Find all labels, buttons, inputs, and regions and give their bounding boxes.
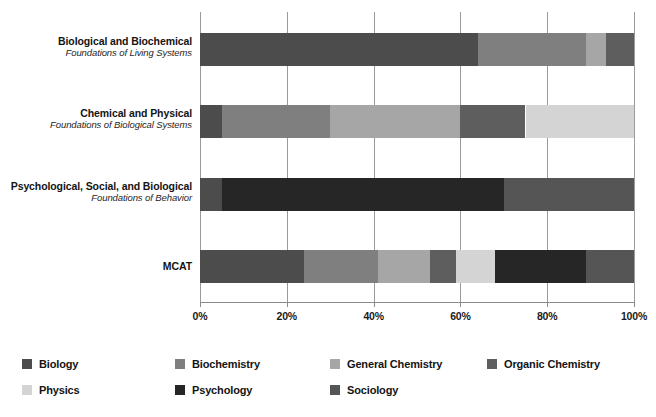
category-label-main: MCAT — [0, 260, 192, 272]
legend-item[interactable]: General Chemistry — [330, 358, 442, 370]
legend-swatch — [175, 359, 185, 369]
bar-segment — [200, 178, 222, 211]
legend-item[interactable]: Biology — [22, 358, 78, 370]
x-axis-tick — [547, 302, 548, 307]
legend-label: Biochemistry — [192, 358, 260, 370]
x-axis-tick-label: 20% — [277, 310, 297, 322]
category-label: Biological and BiochemicalFoundations of… — [0, 35, 192, 59]
bar-segment — [504, 178, 634, 211]
bar-segment — [586, 33, 606, 66]
legend-label: Sociology — [347, 384, 398, 396]
category-label-main: Biological and Biochemical — [0, 35, 192, 47]
category-label: Psychological, Social, and BiologicalFou… — [0, 180, 192, 204]
x-axis-tick — [460, 302, 461, 307]
bar-segment — [526, 105, 635, 138]
bar-segment — [456, 250, 495, 283]
chart-legend: BiologyBiochemistryGeneral ChemistryOrga… — [0, 352, 656, 410]
x-axis-line — [200, 302, 635, 303]
x-axis-tick — [287, 302, 288, 307]
category-label-main: Chemical and Physical — [0, 107, 192, 119]
legend-item[interactable]: Organic Chemistry — [487, 358, 600, 370]
legend-label: Organic Chemistry — [504, 358, 600, 370]
bar-segment — [330, 105, 460, 138]
category-label-sub: Foundations of Behavior — [0, 192, 192, 203]
bar-segment — [495, 250, 586, 283]
bar-segment — [606, 33, 634, 66]
category-label: MCAT — [0, 260, 192, 272]
legend-item[interactable]: Physics — [22, 384, 80, 396]
bar-segment — [222, 105, 331, 138]
bar-segment — [430, 250, 456, 283]
bar-segment — [478, 33, 587, 66]
x-axis-tick — [200, 302, 201, 307]
x-axis-tick-label: 100% — [621, 310, 647, 322]
category-label-main: Psychological, Social, and Biological — [0, 180, 192, 192]
legend-swatch — [330, 359, 340, 369]
legend-swatch — [330, 385, 340, 395]
legend-swatch — [487, 359, 497, 369]
bar-row — [200, 178, 634, 211]
legend-swatch — [22, 385, 32, 395]
x-axis-tick — [374, 302, 375, 307]
legend-item[interactable]: Psychology — [175, 384, 252, 396]
legend-item[interactable]: Sociology — [330, 384, 398, 396]
legend-item[interactable]: Biochemistry — [175, 358, 260, 370]
legend-label: Psychology — [192, 384, 252, 396]
gridline — [634, 12, 635, 302]
stacked-bar-chart: 0%20%40%60%80%100% Biological and Bioche… — [0, 0, 656, 417]
bar-segment — [200, 105, 222, 138]
bar-segment — [200, 33, 478, 66]
legend-swatch — [22, 359, 32, 369]
bar-row — [200, 33, 634, 66]
bar-row — [200, 105, 634, 138]
legend-label: Physics — [39, 384, 80, 396]
legend-label: Biology — [39, 358, 78, 370]
bar-segment — [304, 250, 378, 283]
category-label-sub: Foundations of Biological Systems — [0, 119, 192, 130]
legend-label: General Chemistry — [347, 358, 442, 370]
bar-segment — [378, 250, 430, 283]
legend-swatch — [175, 385, 185, 395]
x-axis-tick-label: 40% — [363, 310, 383, 322]
x-axis-tick-label: 60% — [450, 310, 470, 322]
bar-segment — [460, 105, 525, 138]
bar-segment — [200, 250, 304, 283]
category-label-sub: Foundations of Living Systems — [0, 47, 192, 58]
bar-segment — [222, 178, 504, 211]
x-axis-tick — [634, 302, 635, 307]
x-axis-tick-label: 0% — [193, 310, 208, 322]
category-label: Chemical and PhysicalFoundations of Biol… — [0, 107, 192, 131]
bar-row — [200, 250, 634, 283]
bar-segment — [586, 250, 634, 283]
x-axis-tick-label: 80% — [537, 310, 557, 322]
